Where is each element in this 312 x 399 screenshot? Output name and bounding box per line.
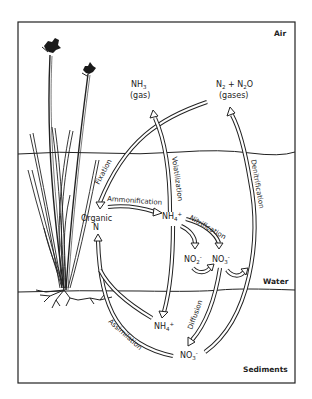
water-surface-line <box>18 151 295 155</box>
no2-to-no3-arrow <box>193 264 214 272</box>
nitrification-arrow-to-no2 <box>181 226 199 249</box>
zone-label-sediments: Sediments <box>243 365 288 374</box>
diffusion-arrow <box>188 268 220 346</box>
node-nh3-note: (gas) <box>130 91 150 100</box>
node-organic-n-line1: Organic <box>81 214 112 223</box>
node-n2-n2o: N2 + N2O <box>216 80 253 90</box>
node-organic-n-line2: N <box>93 223 99 232</box>
process-label-assimilation: Assimilation <box>107 318 144 352</box>
node-no3-water: NO3- <box>212 254 230 265</box>
assimilation-branch-nh4 <box>100 270 152 318</box>
no3-outflow-arrow <box>227 268 248 276</box>
volatilization-arrow <box>150 110 170 212</box>
node-no3-sediment: NO3- <box>180 350 198 361</box>
zone-label-air: Air <box>274 29 286 38</box>
ammonification-arrow <box>108 206 162 216</box>
node-nh3: NH3 <box>131 80 147 90</box>
nh4-downward-arrow <box>159 226 173 318</box>
zone-label-water: Water <box>263 277 289 286</box>
node-nh4-water: NH4+ <box>162 211 183 222</box>
process-label-volatilization: Volatilization <box>170 156 184 201</box>
node-nh4-sediment: NH4+ <box>154 321 175 332</box>
node-no2-water: NO2- <box>184 254 202 265</box>
node-n2-n2o-note: (gases) <box>219 91 248 100</box>
nitrogen-cycle-diagram: Air Water Sediments <box>0 0 312 399</box>
